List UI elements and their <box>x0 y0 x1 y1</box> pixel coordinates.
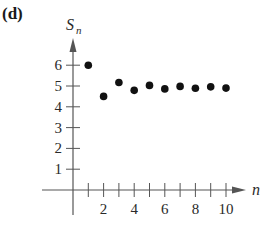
data-point <box>146 82 154 90</box>
data-point <box>161 85 169 93</box>
data-point <box>115 79 123 87</box>
x-tick-label: 6 <box>161 201 169 217</box>
data-point <box>222 84 230 92</box>
x-tick-label: 8 <box>192 201 200 217</box>
data-point <box>85 61 93 69</box>
data-point <box>207 83 215 91</box>
y-tick-label: 2 <box>55 140 63 156</box>
data-point <box>130 87 138 95</box>
y-axis-title: S <box>66 16 74 33</box>
data-point <box>100 93 108 101</box>
scatter-chart: 123456246810nSn <box>0 0 268 225</box>
y-tick-label: 5 <box>55 78 63 94</box>
data-point <box>176 83 184 91</box>
x-tick-label: 10 <box>219 201 234 217</box>
y-tick-label: 1 <box>55 161 63 177</box>
x-axis-arrow-icon <box>232 187 246 194</box>
x-tick-label: 4 <box>130 201 138 217</box>
y-axis-arrow-icon <box>70 38 77 52</box>
y-axis-title-subscript: n <box>76 24 82 36</box>
data-point <box>192 84 200 92</box>
y-tick-label: 3 <box>55 120 63 136</box>
x-tick-label: 2 <box>100 201 108 217</box>
y-tick-label: 6 <box>55 57 63 73</box>
x-axis-title: n <box>252 181 260 198</box>
y-tick-label: 4 <box>55 99 63 115</box>
